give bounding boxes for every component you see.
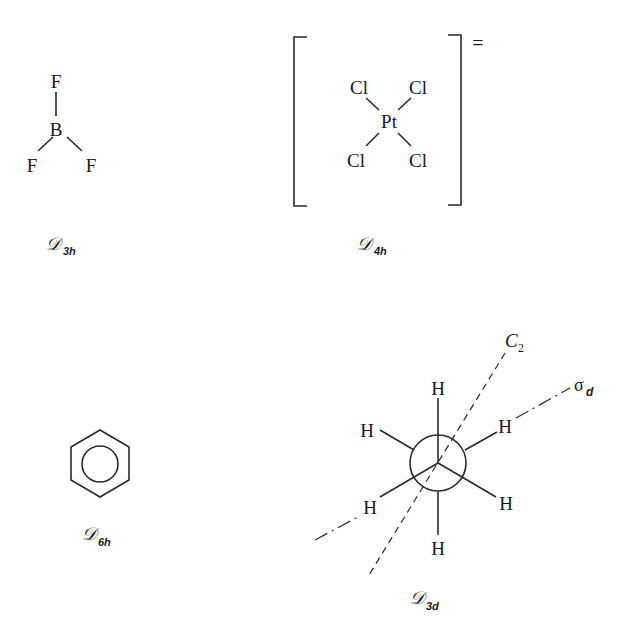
c2-axis-label: C [505, 330, 518, 351]
front-bond-lower-left [380, 463, 438, 497]
h-bottom: H [431, 538, 445, 559]
bond-b-f-left [38, 137, 53, 151]
h-upper-right: H [498, 416, 512, 437]
point-group-label-d3h: 𝒟 3h [46, 234, 76, 257]
bond-pt-cl-br [398, 133, 411, 146]
sigma-d-label: σ [574, 375, 584, 395]
point-group-label-d6h: 𝒟 6h [82, 524, 111, 548]
cl-bottom-right: Cl [409, 150, 427, 171]
ethane-newman-projection: H H H H H H C 2 σ d [315, 330, 594, 575]
back-bond-upper-right [465, 432, 497, 450]
bond-pt-cl-tl [366, 98, 379, 110]
subscript: 6h [98, 536, 111, 548]
bf3-f-top: F [51, 71, 62, 92]
subscript: 4h [373, 245, 387, 257]
bf3-f-right: F [86, 155, 97, 176]
subscript: 3d [426, 600, 439, 612]
point-group-label-d3d: 𝒟 3d [410, 588, 439, 612]
right-bracket [448, 35, 461, 205]
pt-center: Pt [381, 111, 398, 132]
benzene-ring [71, 430, 129, 497]
left-bracket [294, 37, 307, 206]
bf3-b-center: B [50, 119, 63, 140]
cl-top-left: Cl [350, 77, 368, 98]
back-bond-upper-left [380, 430, 414, 450]
point-group-label-d4h: 𝒟 4h [357, 234, 387, 257]
h-top: H [431, 378, 445, 399]
h-upper-left: H [360, 420, 374, 441]
front-bond-lower-right-inner [438, 463, 462, 477]
aromatic-circle-icon [82, 446, 118, 482]
front-bond-lower-right [462, 477, 496, 497]
h-lower-right: H [499, 493, 513, 514]
h-lower-left: H [363, 497, 377, 518]
script-d-glyph: 𝒟 [46, 234, 64, 254]
ptcl4-ion: = Cl Cl Pt Cl Cl [294, 32, 484, 206]
sigma-d-plane-upper [516, 388, 570, 418]
sigma-d-subscript: d [586, 385, 594, 399]
cl-bottom-left: Cl [347, 150, 365, 171]
c2-axis-subscript: 2 [518, 341, 524, 355]
point-group-figure: F B F F 𝒟 3h = Cl Cl Pt Cl Cl 𝒟 4h 𝒟 6h [0, 0, 624, 638]
script-d-glyph: 𝒟 [357, 234, 375, 254]
subscript: 3h [63, 245, 76, 257]
bond-pt-cl-tr [398, 98, 411, 110]
charge-superscript: = [472, 32, 483, 54]
bf3-f-left: F [27, 155, 38, 176]
bond-pt-cl-bl [366, 133, 379, 146]
cl-top-right: Cl [409, 77, 427, 98]
bf3-molecule: F B F F [27, 71, 97, 176]
hexagon-icon [71, 430, 129, 497]
bond-b-f-right [67, 137, 82, 151]
sigma-d-plane-lower [315, 517, 358, 540]
